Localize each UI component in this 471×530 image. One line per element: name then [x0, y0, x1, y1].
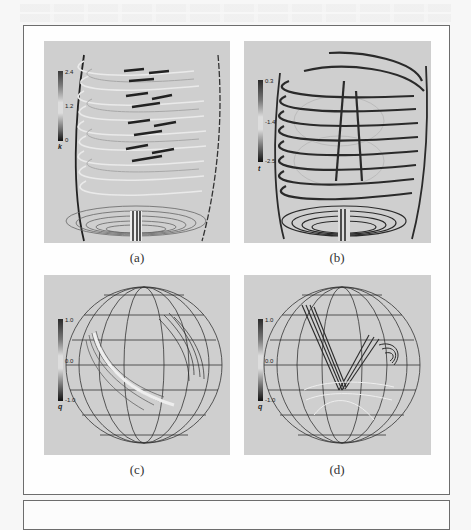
colorbar-tick: 0.0 [265, 358, 273, 364]
colorbar-t [258, 80, 263, 162]
colorbar-tick: 1.0 [265, 317, 273, 323]
colorbar-tick: 0 [65, 137, 68, 143]
caption-a: (a) [44, 250, 230, 266]
caption-c: (c) [44, 462, 230, 478]
colorbar-tick: 1.0 [65, 317, 73, 323]
colorbar-tick: 1.2 [65, 103, 73, 109]
colorbar-variable: k [58, 143, 62, 150]
panel-a: 2.4 1.2 0 k [44, 41, 230, 243]
background-text-line [20, 4, 451, 12]
helical-field-lines-plot [244, 41, 431, 243]
colorbar-q [258, 319, 263, 401]
sphere-field-lines-plot [44, 275, 230, 455]
colorbar-tick: 2.4 [65, 69, 73, 75]
sphere-field-lines-plot [244, 275, 431, 455]
colorbar-variable: t [258, 165, 260, 172]
colorbar-tick: -1.0 [265, 397, 275, 403]
colorbar-tick: -1.4 [265, 119, 275, 125]
background-text-line [20, 14, 451, 22]
colorbar-q [58, 319, 63, 401]
panel-c: 1.0 0.0 -1.0 q [44, 275, 230, 455]
colorbar-tick: -1.0 [65, 397, 75, 403]
colorbar-variable: q [258, 403, 262, 410]
colorbar-tick: -2.5 [265, 158, 275, 164]
next-figure-frame [23, 500, 450, 530]
panel-b: 0.3 -1.4 -2.5 t [244, 41, 431, 243]
colorbar-k [58, 71, 63, 141]
panel-d: 1.0 0.0 -1.0 q [244, 275, 431, 455]
colorbar-tick: 0.0 [65, 358, 73, 364]
caption-b: (b) [244, 250, 430, 266]
colorbar-variable: q [58, 403, 62, 410]
colorbar-tick: 0.3 [265, 78, 273, 84]
caption-d: (d) [244, 462, 430, 478]
